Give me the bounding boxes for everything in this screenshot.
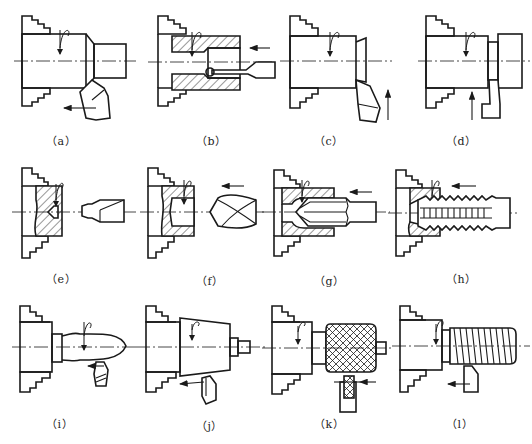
chuck-jaw-icon — [426, 16, 454, 108]
center-drill-icon — [82, 200, 124, 222]
panel-e — [12, 168, 138, 258]
cutting-tool-icon — [80, 80, 110, 120]
panel-d — [418, 16, 530, 120]
chuck-jaw-icon — [146, 306, 176, 392]
workpiece — [426, 36, 488, 88]
panel-l — [392, 306, 530, 392]
facing-tool-icon — [356, 80, 380, 122]
boring-bar-icon — [212, 62, 275, 78]
lathe-operations-diagram — [0, 0, 532, 444]
workpiece-section — [172, 36, 240, 52]
panel-c — [280, 16, 392, 122]
panel-h — [388, 170, 520, 256]
panel-label-d: （d） — [446, 132, 477, 148]
grooving-tool-icon — [482, 80, 500, 118]
panel-label-c: （c） — [314, 132, 344, 148]
panel-label-e: （e） — [46, 270, 76, 286]
panel-label-f: （f） — [196, 272, 224, 288]
panel-label-b: （b） — [196, 132, 227, 148]
rotation-arrow-icon — [192, 322, 199, 340]
rotation-arrow-icon — [298, 322, 305, 344]
chuck-jaw-icon — [400, 306, 426, 392]
panel-k — [262, 306, 392, 412]
thread-tool-icon — [464, 366, 478, 392]
chuck-jaw-icon — [158, 16, 186, 106]
panel-label-a: （a） — [46, 132, 76, 148]
feed-arrow-icon — [180, 382, 204, 384]
panel-b — [148, 16, 275, 106]
chuck-jaw-icon — [290, 16, 318, 108]
panel-a — [14, 16, 136, 120]
panel-f — [140, 168, 266, 258]
rotation-arrow-icon — [84, 322, 91, 350]
tap-icon — [418, 196, 510, 230]
twist-drill-icon — [210, 195, 256, 228]
panel-label-l: （l） — [446, 415, 473, 431]
panel-label-i: （i） — [46, 415, 73, 431]
panel-label-j: （j） — [196, 417, 223, 433]
chuck-jaw-icon — [272, 306, 300, 394]
panel-label-h: （h） — [446, 270, 477, 286]
chuck-jaw-icon — [20, 306, 50, 392]
panel-j — [136, 306, 266, 404]
panel-label-g: （g） — [314, 272, 345, 288]
panel-label-k: （k） — [314, 415, 344, 431]
panel-g — [262, 170, 390, 256]
taper-tool-icon — [202, 376, 216, 404]
panel-i — [12, 306, 136, 392]
workpiece — [290, 36, 356, 88]
